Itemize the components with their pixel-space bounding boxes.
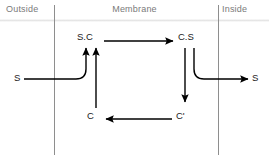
arrow-cs-to-s-inside: [194, 48, 248, 79]
node-label-s-outside: S: [14, 72, 20, 83]
node-label-s-inside: S: [252, 72, 258, 83]
node-label-c-carrier: C: [87, 110, 94, 121]
node-label-cs-complex: C.S: [178, 31, 194, 42]
arrow-s-outside-to-sc: [24, 48, 86, 79]
node-label-sc-complex: S.C: [77, 31, 93, 42]
node-label-c-prime: C': [176, 110, 185, 121]
membrane-transport-diagram: Outside Membrane Inside S: [0, 0, 269, 157]
diagram-connectors: [0, 0, 269, 157]
